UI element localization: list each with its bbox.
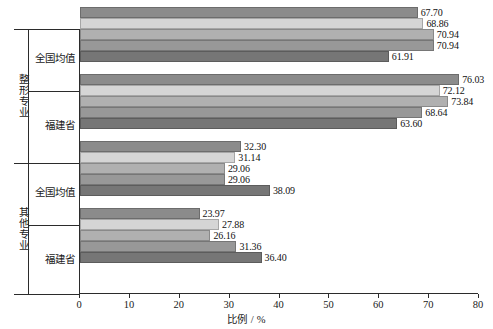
bar-value-label: 31.14	[238, 152, 260, 163]
bar	[80, 118, 397, 129]
bar	[80, 51, 389, 62]
y-axis-group-bracket	[28, 29, 29, 163]
bar-value-label: 72.12	[443, 85, 465, 96]
bar	[80, 96, 448, 107]
y-axis-groups: 整形专业全国均值福建省其他专业全国均值福建省	[14, 29, 79, 294]
bar-value-label: 73.84	[451, 96, 473, 107]
bar	[80, 74, 459, 85]
x-axis-tick-label: 40	[273, 299, 284, 310]
bar	[80, 174, 225, 185]
bar	[80, 208, 200, 219]
bar	[80, 252, 262, 263]
bars-layer: 67.7068.8670.9470.9461.9176.0372.1273.84…	[80, 29, 479, 293]
bar	[80, 29, 434, 40]
y-axis-category-label: 福建省	[45, 117, 75, 132]
x-axis-ticks: 01020304050607080	[79, 294, 478, 300]
bar	[80, 18, 423, 29]
bar	[80, 85, 440, 96]
x-axis-tick	[129, 294, 130, 298]
x-axis-tick-label: 70	[423, 299, 434, 310]
bar	[80, 230, 210, 241]
bar	[80, 241, 236, 252]
bar-value-label: 36.40	[265, 252, 287, 263]
x-axis-tick	[428, 294, 429, 298]
bar	[80, 141, 241, 152]
x-axis-tick-label: 60	[373, 299, 384, 310]
x-axis-tick-label: 80	[473, 299, 484, 310]
y-axis-category-separator	[29, 225, 79, 226]
bar-value-label: 29.06	[228, 174, 250, 185]
bar-value-label: 27.88	[222, 219, 244, 230]
y-axis-category-label: 全国均值	[35, 184, 75, 199]
x-axis-tick	[179, 294, 180, 298]
bar	[80, 40, 434, 51]
y-axis-category-separator	[29, 91, 79, 92]
bar-value-label: 32.30	[244, 141, 266, 152]
x-axis-tick-label: 50	[323, 299, 334, 310]
x-axis-tick	[79, 294, 80, 298]
y-axis-category-label: 全国均值	[35, 50, 75, 65]
bar-value-label: 38.09	[273, 185, 295, 196]
x-axis-tick	[279, 294, 280, 298]
bar-value-label: 76.03	[462, 74, 484, 85]
bar	[80, 107, 422, 118]
y-axis-group-bracket	[28, 163, 29, 294]
bar	[80, 152, 235, 163]
bar-value-label: 70.94	[437, 40, 459, 51]
x-axis-tick	[378, 294, 379, 298]
x-axis-tick	[328, 294, 329, 298]
bar-value-label: 67.70	[421, 7, 443, 18]
y-axis-group-separator	[14, 294, 79, 295]
bar-chart: 2018年2019年2020年2021年2022年 67.7068.8670.9…	[0, 0, 493, 329]
bar-value-label: 26.16	[213, 230, 235, 241]
bar-value-label: 29.06	[228, 163, 250, 174]
y-axis-category-label: 福建省	[45, 251, 75, 266]
bar	[80, 185, 270, 196]
plot-area: 67.7068.8670.9470.9461.9176.0372.1273.84…	[79, 29, 478, 294]
bar-value-label: 68.86	[426, 18, 448, 29]
bar-value-label: 61.91	[392, 51, 414, 62]
bar	[80, 7, 418, 18]
bar-value-label: 31.36	[239, 241, 261, 252]
x-axis-title: 比例 / %	[0, 311, 493, 326]
bar	[80, 163, 225, 174]
x-axis-tick-label: 20	[174, 299, 185, 310]
x-axis-tick	[229, 294, 230, 298]
bar-value-label: 68.64	[425, 107, 447, 118]
bar-value-label: 23.97	[203, 208, 225, 219]
bar-value-label: 63.60	[400, 118, 422, 129]
x-axis-tick-label: 30	[223, 299, 234, 310]
y-axis-group-separator	[14, 163, 79, 164]
bar	[80, 219, 219, 230]
bar-value-label: 70.94	[437, 29, 459, 40]
x-axis-tick-label: 10	[124, 299, 135, 310]
x-axis-tick-label: 0	[76, 299, 81, 310]
y-axis-top-border	[14, 29, 79, 30]
x-axis-tick	[478, 294, 479, 298]
